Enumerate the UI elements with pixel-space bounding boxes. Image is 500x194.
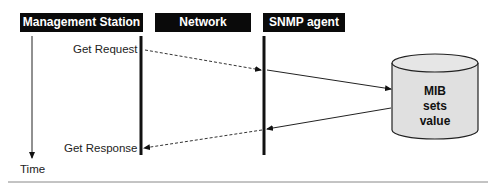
get-request-arrow — [145, 50, 261, 70]
time-label: Time — [20, 163, 45, 175]
mib-label-line1: MIB — [392, 84, 478, 99]
mib-label-line2: sets — [392, 99, 478, 114]
mib-label-line3: value — [392, 114, 478, 129]
get-request-label: Get Request — [73, 43, 138, 55]
get-response-label: Get Response — [64, 142, 138, 154]
agent-to-mib-arrow — [267, 70, 391, 89]
mib-to-agent-arrow — [267, 108, 391, 129]
get-response-arrow — [144, 130, 262, 148]
